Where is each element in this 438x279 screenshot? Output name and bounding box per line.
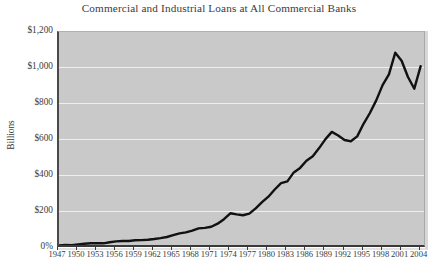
x-axis-tick-label: 1947 <box>48 250 65 259</box>
x-axis-tick-mark <box>343 247 344 250</box>
y-axis-tick-label: $1,200 <box>1 26 53 35</box>
x-axis-tick-label: 1992 <box>334 250 351 259</box>
x-axis-tick-label: 1986 <box>296 250 313 259</box>
x-axis-tick-label: 1959 <box>125 250 142 259</box>
x-axis-tick-mark <box>419 247 420 250</box>
x-axis-tick-mark <box>323 247 324 250</box>
series-line-chart <box>59 32 425 247</box>
x-axis-tick-mark <box>285 247 286 250</box>
x-axis-tick-label: 1980 <box>258 250 275 259</box>
x-axis-tick-mark <box>133 247 134 250</box>
x-axis-tick-mark <box>114 247 115 250</box>
series-line-commercial-industrial-loans <box>59 53 421 246</box>
x-axis-tick-label: 1965 <box>163 250 180 259</box>
x-axis-tick-label: 1968 <box>182 250 199 259</box>
y-axis-tick-label: $600 <box>1 134 53 143</box>
chart-title: Commercial and Industrial Loans at All C… <box>0 2 438 14</box>
x-axis-tick-mark <box>362 247 363 250</box>
x-axis-tick-mark <box>57 247 58 250</box>
x-axis-tick-mark <box>76 247 77 250</box>
x-axis-tick-mark <box>247 247 248 250</box>
x-axis-tick-mark <box>304 247 305 250</box>
x-axis-tick-label: 2004 <box>410 250 427 259</box>
y-axis-tick-label: $800 <box>1 98 53 107</box>
x-axis-tick-mark <box>209 247 210 250</box>
x-axis-tick-mark <box>381 247 382 250</box>
chart-container: Commercial and Industrial Loans at All C… <box>0 0 438 279</box>
x-axis-tick-label: 1974 <box>220 250 237 259</box>
x-axis-tick-mark <box>400 247 401 250</box>
x-axis-tick-label: 1989 <box>315 250 332 259</box>
x-axis-tick-mark <box>228 247 229 250</box>
x-axis-tick-label: 1995 <box>353 250 370 259</box>
x-axis-tick-label: 1977 <box>239 250 256 259</box>
x-axis: 1947195019531956195919621965196819711974… <box>0 250 438 268</box>
x-axis-tick-mark <box>152 247 153 250</box>
x-axis-tick-label: 1956 <box>106 250 123 259</box>
x-axis-tick-mark <box>171 247 172 250</box>
x-axis-tick-label: 1998 <box>372 250 389 259</box>
x-axis-tick-label: 1953 <box>86 250 103 259</box>
x-axis-tick-label: 1962 <box>144 250 161 259</box>
x-axis-tick-mark <box>95 247 96 250</box>
x-axis-tick-label: 1950 <box>67 250 84 259</box>
y-axis-tick-label: $400 <box>1 170 53 179</box>
plot-area <box>57 31 425 247</box>
x-axis-tick-label: 2001 <box>391 250 408 259</box>
y-axis-tick-label: $200 <box>1 206 53 215</box>
y-axis-tick-label: $1,000 <box>1 62 53 71</box>
y-axis: Billions $1,200$1,000$800$600$400$2000% <box>0 0 53 279</box>
x-axis-tick-label: 1971 <box>201 250 218 259</box>
x-axis-tick-mark <box>266 247 267 250</box>
x-axis-tick-mark <box>190 247 191 250</box>
x-axis-tick-label: 1983 <box>277 250 294 259</box>
